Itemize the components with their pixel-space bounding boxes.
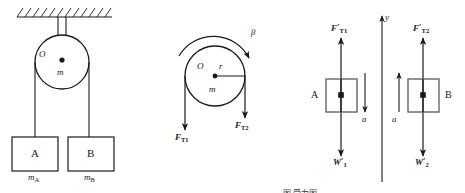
pulley-axle-dot (59, 57, 64, 62)
pulley-mass-label: m (57, 68, 64, 77)
block-b-mass-label: mB (84, 173, 95, 182)
block-a-label: A (31, 148, 39, 159)
ceiling-hatching (17, 8, 111, 17)
blocks-fbd-drawing (300, 0, 465, 193)
figure-caption: 图 受力图 (283, 187, 317, 193)
block-a-weight-label: W′1 (333, 158, 347, 167)
block-a-label: A (311, 90, 318, 100)
pulley-fbd-drawing (155, 0, 300, 193)
radius-label: r (219, 62, 223, 71)
block-b-tension-label: F′T2 (413, 24, 429, 33)
tension-left-label: FT1 (175, 133, 189, 142)
block-a-accel-label: a (362, 115, 367, 124)
block-b-label: B (87, 148, 94, 159)
block-b-weight-label: W′2 (415, 158, 429, 167)
y-axis-label: y (385, 13, 389, 22)
figure-canvas: O m A B mA mB (0, 0, 465, 193)
panel-blocks-free-body: y F′T1 W′1 A a F′T2 W′2 B a (300, 0, 465, 193)
block-a-tension-label: F′T1 (331, 24, 347, 33)
tension-right-label: FT2 (235, 121, 249, 130)
pulley-system-drawing (0, 0, 155, 193)
block-a-center-dot (338, 92, 344, 98)
panel-pulley-free-body: O r m β FT1 FT2 (155, 0, 300, 193)
panel-pulley-system-setup: O m A B mA mB (0, 0, 155, 193)
angular-accel-label: β (251, 28, 255, 37)
pulley-mass-label: m (209, 85, 216, 94)
pulley-center-label: O (197, 62, 204, 71)
block-b-center-dot (420, 92, 426, 98)
block-a-mass-label: mA (28, 173, 39, 182)
pulley-center-label: O (39, 50, 46, 59)
block-b-accel-label: a (392, 115, 397, 124)
block-b-label: B (445, 90, 452, 100)
